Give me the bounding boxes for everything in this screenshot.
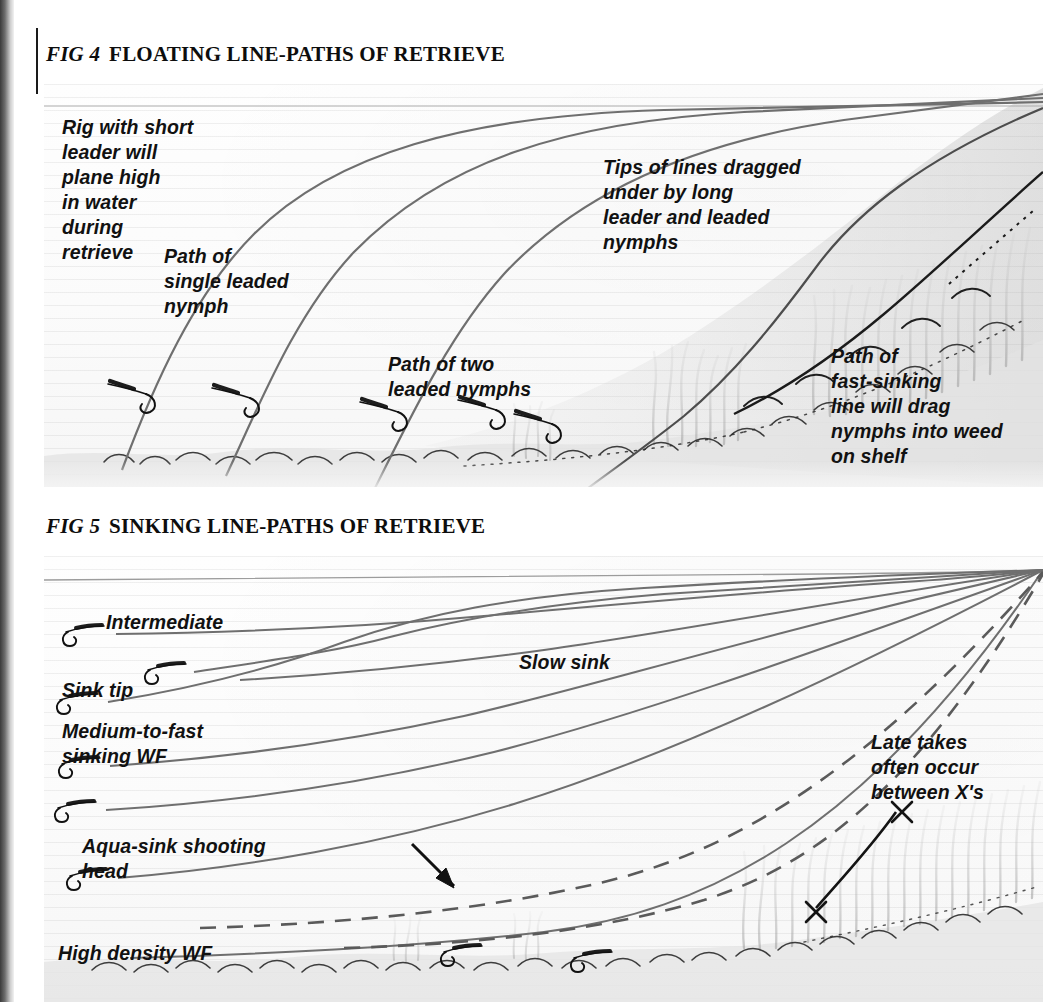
dragged-tips-note: Tips of lines dragged under by long lead… [603,155,801,255]
fig5-title: FIG 5SINKING LINE-PATHS OF RETRIEVE [46,514,485,539]
fig5-title-text: SINKING LINE-PATHS OF RETRIEVE [109,514,485,538]
line-path-aqua-sink-head [118,570,1043,878]
high-density-line-label: High density WF [58,941,212,966]
nymph-hook-1 [108,381,155,413]
nymph-hook-2 [212,385,259,417]
retrieve-arrow [412,844,454,888]
late-takes-note: Late takes often occur between X's [871,730,984,805]
fig4-title-text: FLOATING LINE-PATHS OF RETRIEVE [109,42,505,66]
fly-hook-intermediate [63,625,104,646]
fig5-illustration: Intermediate Sink tip Medium-to-fast sin… [44,556,1043,1002]
line-path-sink-tip [108,570,1043,702]
intermediate-line-label: Intermediate [106,610,223,635]
fig4-title: FIG 4FLOATING LINE-PATHS OF RETRIEVE [46,42,505,67]
slow-sink-line-label: Slow sink [519,650,610,675]
fly-hook-medium-fast-2 [55,801,96,822]
fig5-label: FIG 5 [46,514,100,538]
scanned-page: FIG 4FLOATING LINE-PATHS OF RETRIEVE [0,0,1043,1002]
single-nymph-note: Path of single leaded nymph [164,244,289,319]
fast-sinking-note: Path of fast-sinking line will drag nymp… [831,344,1003,469]
nymph-hook-3 [360,399,407,431]
page-rule [36,28,38,94]
line-path-slow-sink [194,570,1043,672]
sink-tip-line-label: Sink tip [62,678,133,703]
fig4-label: FIG 4 [46,42,100,66]
fig4-illustration: Rig with short leader will plane high in… [44,84,1043,487]
fig4-bottom-fade [44,461,1043,487]
two-nymphs-note: Path of two leaded nymphs [388,352,531,402]
aqua-sink-line-label: Aqua-sink shooting head [82,834,266,884]
medium-fast-line-label: Medium-to-fast sinking WF [62,719,203,769]
page-margin-shadow [0,0,14,1002]
fly-hook-slow-sink [145,663,186,684]
short-leader-note: Rig with short leader will plane high in… [62,115,193,265]
